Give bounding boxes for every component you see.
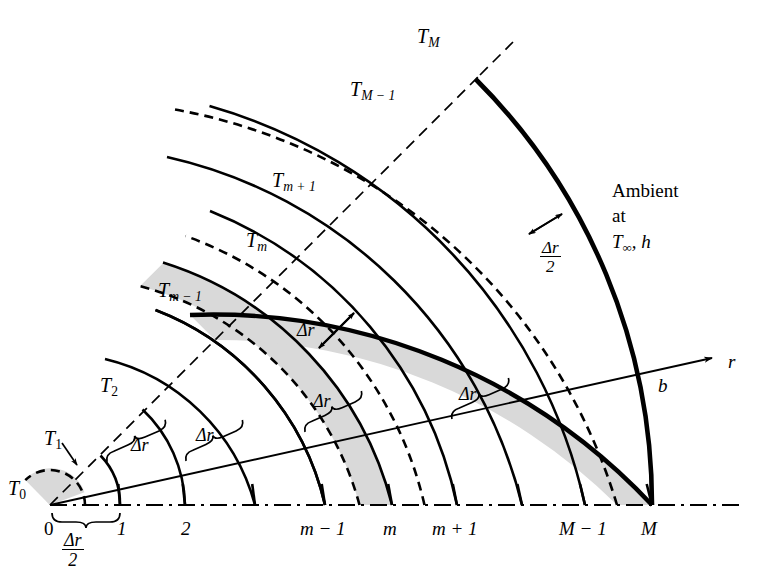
label-T-M-minus-1: TM − 1: [350, 79, 395, 102]
node-label-1: 1: [117, 519, 127, 538]
t1-leader-arrow: [62, 443, 77, 465]
label-T2: T2: [100, 375, 118, 398]
node-label-M-minus-1: M − 1: [559, 519, 607, 538]
ambient-line-3: T∞, h: [612, 229, 679, 256]
node-label-m: m: [383, 519, 397, 538]
spacing-label-dr-4: Δr: [459, 385, 477, 403]
brace-dr-half-origin: [52, 513, 120, 528]
node-label-0: 0: [44, 519, 54, 538]
fraction-dr-half-outer: Δr 2: [540, 239, 561, 276]
spacing-label-dr-1: Δr: [131, 436, 149, 454]
mesh-arcs: [101, 106, 653, 505]
arc-node-M-minus-1: [210, 106, 586, 505]
node-label-M: M: [641, 519, 657, 538]
node-label-m-minus-1: m − 1: [300, 519, 346, 538]
label-T-m-minus-1: Tm − 1: [158, 280, 202, 303]
label-T-M: TM: [417, 26, 439, 49]
spacing-label-dr-radial: Δr: [297, 321, 315, 339]
arc-node-1: [101, 456, 121, 506]
axis-label-b: b: [658, 376, 668, 395]
label-T-m: Tm: [246, 230, 267, 253]
axis-label-r: r: [728, 352, 735, 371]
node-label-m-plus-1: m + 1: [432, 519, 478, 538]
spacing-label-dr-2: Δr: [196, 426, 214, 444]
ambient-note: Ambient at T∞, h: [612, 178, 679, 255]
node-label-2: 2: [181, 519, 191, 538]
arc-node-2: [143, 410, 186, 506]
dr-half-outer-dimension-arrow: [529, 214, 562, 234]
spacing-label-dr-3: Δr: [313, 392, 331, 410]
shaded-control-volumes: [25, 262, 652, 505]
ambient-line-2: at: [612, 203, 679, 228]
radial-boundary-dashed: [50, 42, 513, 505]
fraction-dr-half-origin: Δr 2: [62, 531, 84, 570]
label-T1: T1: [44, 428, 62, 451]
label-T-m-plus-1: Tm + 1: [272, 170, 316, 193]
figure-canvas: T0 T1 T2 Tm − 1 Tm Tm + 1 TM − 1 TM 0 1 …: [0, 0, 757, 582]
label-T0: T0: [8, 478, 26, 501]
ambient-line-1: Ambient: [612, 178, 679, 203]
